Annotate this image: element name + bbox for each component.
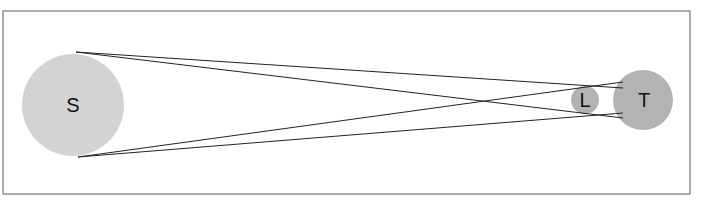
inner-tangent-top — [76, 52, 623, 118]
earth-label: T — [638, 89, 650, 111]
outer-tangent-top — [76, 52, 623, 88]
eclipse-diagram: S L T — [0, 0, 706, 203]
moon-label: L — [579, 89, 590, 111]
sun-label: S — [66, 94, 79, 116]
